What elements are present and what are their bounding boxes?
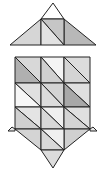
base-inverted-triangle xyxy=(8,127,97,168)
roof-apex-piece xyxy=(41,3,64,19)
left-wing xyxy=(8,127,15,131)
base-right-piece xyxy=(64,129,90,150)
roof-right-piece xyxy=(64,19,96,45)
roof-triangle xyxy=(10,3,96,45)
right-wing xyxy=(90,127,97,131)
base-tip-piece xyxy=(41,150,64,168)
diagonal-square-grid xyxy=(15,57,90,129)
tangram-figure xyxy=(0,0,106,178)
roof-left-piece xyxy=(10,19,41,45)
base-left-piece xyxy=(15,129,41,150)
